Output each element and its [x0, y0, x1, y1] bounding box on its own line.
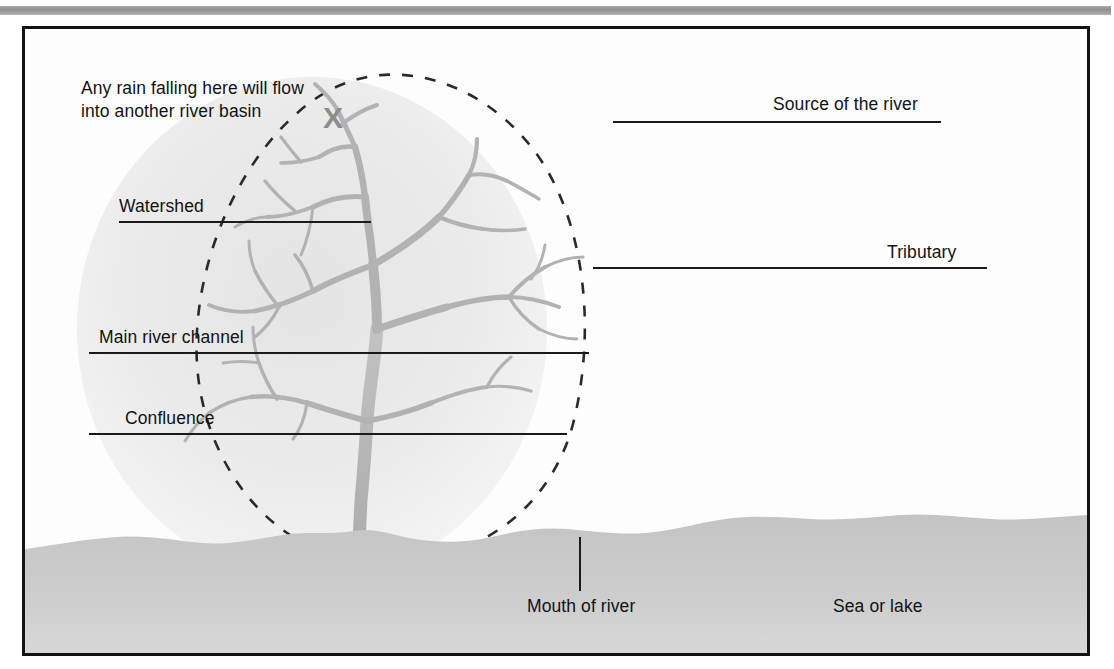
label-source-of-the-river: Source of the river [773, 93, 918, 116]
x-mark-icon: X [323, 103, 343, 133]
label-sea-or-lake: Sea or lake [833, 595, 923, 618]
label-mouth-of-river: Mouth of river [527, 595, 635, 618]
label-main-river-channel: Main river channel [99, 326, 244, 349]
leader-line-mouth-of-river [579, 537, 581, 591]
figure-frame: Any rain falling here will flow into ano… [22, 26, 1090, 656]
label-watershed: Watershed [119, 195, 204, 218]
leader-line-watershed [119, 221, 371, 223]
label-confluence: Confluence [125, 407, 215, 430]
leader-line-confluence [89, 433, 567, 435]
label-tributary: Tributary [887, 241, 956, 264]
scan-artifact-bar [0, 6, 1111, 15]
diagram-page: Any rain falling here will flow into ano… [0, 0, 1114, 669]
leader-line-main-river-channel [89, 352, 589, 354]
leader-line-tributary [593, 267, 987, 269]
leader-line-source [613, 121, 941, 123]
